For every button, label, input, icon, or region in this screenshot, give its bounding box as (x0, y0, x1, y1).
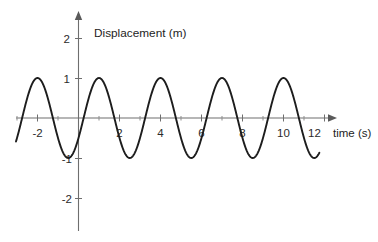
y-tick-label-2: 2 (64, 33, 70, 45)
x-tick-label-neg2: -2 (32, 127, 42, 139)
x-tick-label-4: 4 (157, 127, 164, 139)
x-tick-label-12: 12 (308, 127, 321, 139)
x-axis-arrowhead (328, 114, 337, 121)
y-axis-arrowhead (75, 11, 82, 20)
chart-title: Displacement (m) (94, 26, 186, 40)
sine-wave-plot: -2 2 4 6 8 10 12 2 1 -1 -2 Displacement … (0, 0, 378, 242)
displacement-time-graph: -2 2 4 6 8 10 12 2 1 -1 -2 Displacement … (0, 0, 378, 242)
y-tick-label-neg2: -2 (62, 193, 72, 205)
x-axis-title: time (s) (333, 127, 372, 139)
y-tick-label-1: 1 (64, 73, 70, 85)
x-tick-label-10: 10 (277, 127, 290, 139)
x-axis-tick-labels: -2 2 4 6 8 10 12 (32, 127, 321, 139)
